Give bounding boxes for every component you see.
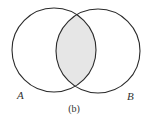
set-a-label: A xyxy=(16,89,24,101)
set-b-label: B xyxy=(127,90,134,102)
figure-caption: (b) xyxy=(68,103,80,115)
venn-diagram: A B (b) xyxy=(0,0,148,121)
